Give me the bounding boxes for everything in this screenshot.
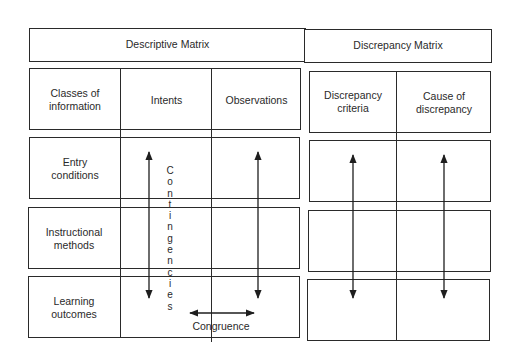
arrows-layer [0,0,516,359]
congruence-label: Congruence [175,320,267,333]
contingencies-label: C o n t i n g e n c i e s [165,165,175,312]
